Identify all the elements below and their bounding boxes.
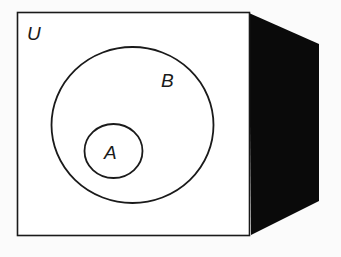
set-b-label: B: [161, 70, 174, 91]
universe-label: U: [27, 23, 41, 44]
set-a-label: A: [103, 142, 117, 163]
box-side-face: [249, 13, 319, 235]
venn-diagram: U B A: [0, 0, 341, 257]
